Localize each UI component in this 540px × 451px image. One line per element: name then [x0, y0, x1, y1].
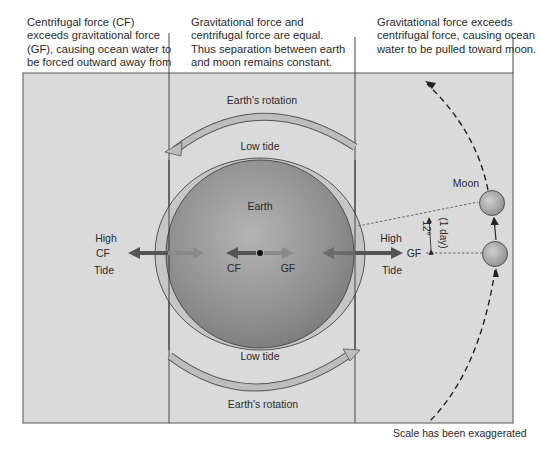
- high-label-left: High: [95, 232, 117, 244]
- earth-label: Earth: [247, 200, 272, 212]
- gf-label-right: GF: [407, 247, 422, 259]
- earth-center-dot: [257, 250, 263, 256]
- scale-footnote: Scale has been exaggerated: [393, 427, 527, 439]
- tide-label-right: Tide: [382, 264, 402, 276]
- time-label: (1 day): [438, 217, 449, 248]
- moon-position-current: [483, 242, 508, 267]
- moon-position-later: [480, 191, 505, 216]
- gf-label-center: GF: [281, 262, 296, 274]
- tide-diagram: Earth's rotation Low tide Earth High CF …: [0, 0, 540, 451]
- angle-label: 12°: [421, 220, 432, 235]
- tide-label-left: Tide: [94, 264, 114, 276]
- rotation-label-bottom: Earth's rotation: [228, 398, 298, 410]
- cf-label-left: CF: [96, 247, 110, 259]
- rotation-label-top: Earth's rotation: [227, 94, 297, 106]
- high-label-right: High: [380, 232, 402, 244]
- moon-label: Moon: [453, 177, 479, 189]
- low-tide-label-top: Low tide: [240, 140, 279, 152]
- low-tide-label-bottom: Low tide: [240, 350, 279, 362]
- cf-label-center: CF: [227, 262, 241, 274]
